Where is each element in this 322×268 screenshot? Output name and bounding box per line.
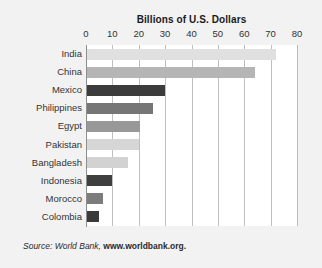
category-label-india: India <box>0 49 82 59</box>
bar-row <box>86 172 297 190</box>
chart-figure: Billions of U.S. Dollars 010203040506070… <box>0 0 322 268</box>
y-axis-line <box>86 45 87 227</box>
bar-philippines <box>86 103 153 114</box>
category-label-pakistan: Pakistan <box>0 140 82 150</box>
bar-row <box>86 154 297 172</box>
category-axis-labels: IndiaChinaMexicoPhilippinesEgyptPakistan… <box>0 45 82 226</box>
bar-bangladesh <box>86 157 128 168</box>
bar-india <box>86 49 276 60</box>
source-lead: Source: World Bank, <box>23 241 103 251</box>
category-label-morocco: Morocco <box>0 194 82 204</box>
bar-row <box>86 81 297 99</box>
bar-row <box>86 63 297 81</box>
category-label-bangladesh: Bangladesh <box>0 158 82 168</box>
category-label-colombia: Colombia <box>0 212 82 222</box>
bar-row <box>86 136 297 154</box>
bar-row <box>86 190 297 208</box>
x-axis-tick-labels: 01020304050607080 <box>86 28 297 42</box>
x-tick-label-10: 10 <box>107 28 118 39</box>
x-tick-label-30: 30 <box>160 28 171 39</box>
x-tick-label-20: 20 <box>133 28 144 39</box>
x-tick-label-50: 50 <box>213 28 224 39</box>
x-tick-label-70: 70 <box>265 28 276 39</box>
bar-row <box>86 45 297 63</box>
bar-pakistan <box>86 139 139 150</box>
bar-row <box>86 99 297 117</box>
bar-egypt <box>86 121 140 132</box>
plot-area <box>86 45 298 226</box>
x-tick-label-0: 0 <box>83 28 88 39</box>
source-note: Source: World Bank, www.worldbank.org. <box>23 241 186 251</box>
bar-row <box>86 117 297 135</box>
x-tick-label-80: 80 <box>292 28 303 39</box>
bar-morocco <box>86 193 103 204</box>
category-label-egypt: Egypt <box>0 121 82 131</box>
bar-mexico <box>86 85 165 96</box>
source-url: www.worldbank.org. <box>103 241 186 251</box>
x-tick-label-40: 40 <box>186 28 197 39</box>
chart-title: Billions of U.S. Dollars <box>86 14 297 25</box>
bar-indonesia <box>86 175 112 186</box>
category-label-indonesia: Indonesia <box>0 176 82 186</box>
bar-colombia <box>86 211 99 222</box>
category-label-mexico: Mexico <box>0 85 82 95</box>
x-tick-label-60: 60 <box>239 28 250 39</box>
bar-china <box>86 67 255 78</box>
category-label-china: China <box>0 67 82 77</box>
bar-row <box>86 208 297 226</box>
category-label-philippines: Philippines <box>0 103 82 113</box>
